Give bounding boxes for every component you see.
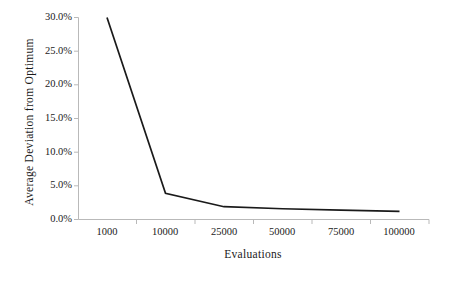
x-tick-label: 100000: [364, 226, 434, 237]
x-tick-label-layer: 1000 10000 25000 50000 75000 100000: [0, 0, 453, 282]
x-axis-title: Evaluations: [183, 248, 323, 260]
y-axis-title: Average Deviation from Optimum: [23, 12, 35, 232]
chart-container: 30.0% 25.0% 20.0% 15.0% 10.0% 5.0% 0.0% …: [0, 0, 453, 282]
